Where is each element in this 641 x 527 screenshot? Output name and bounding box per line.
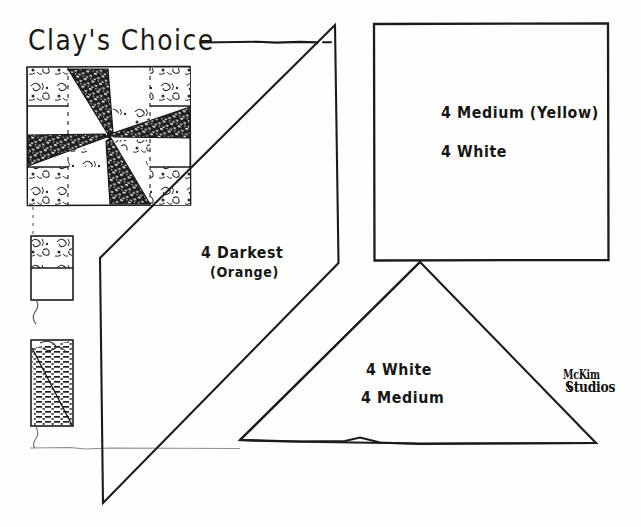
pattern-sheet: Clay's Choice 4 Darkest (Orange) 4 Mediu… xyxy=(0,0,641,527)
signature: McKim Studios xyxy=(563,369,618,393)
swatch-medium-print xyxy=(31,236,73,300)
title-rule xyxy=(201,42,331,43)
signature-line2: Studios xyxy=(565,380,615,394)
parallelogram-label-line1: 4 Darkest xyxy=(201,244,283,262)
triangle-label-line1: 4 White xyxy=(366,361,432,379)
pattern-linework xyxy=(0,0,641,527)
quilt-block-diagram xyxy=(27,67,191,237)
parallelogram-label-line2: (Orange) xyxy=(210,264,279,281)
swatch-dark-hatch xyxy=(31,340,73,426)
piece-triangle-outline xyxy=(240,262,596,444)
square-label-line1: 4 Medium (Yellow) xyxy=(441,104,599,122)
square-label-line2: 4 White xyxy=(441,143,507,161)
piece-square-outline xyxy=(374,24,609,261)
page-title: Clay's Choice xyxy=(28,24,215,56)
triangle-label-line2: 4 Medium xyxy=(361,389,444,407)
